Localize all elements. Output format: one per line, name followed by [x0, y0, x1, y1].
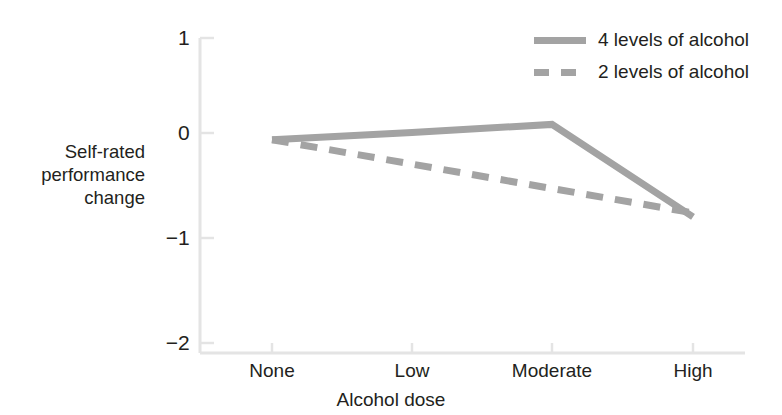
x-tick-label-high: High: [623, 360, 763, 382]
y-axis-title-line-1: Self-rated: [10, 140, 145, 163]
chart-legend: 4 levels of alcohol 2 levels of alcohol: [534, 24, 749, 88]
x-tick-label-moderate: Moderate: [482, 360, 622, 382]
y-tick-label-minus-2: −2: [150, 332, 190, 353]
y-tick-label-minus-1: −1: [150, 227, 190, 248]
y-axis-title-line-2: performance: [10, 163, 145, 186]
y-tick-label-1: 1: [150, 27, 190, 48]
x-axis-title: Alcohol dose: [0, 389, 782, 411]
legend-solid-line-icon: [534, 37, 586, 44]
legend-label-4-levels: 4 levels of alcohol: [598, 29, 749, 51]
y-axis-title-line-3: change: [10, 186, 145, 209]
legend-dashed-line-icon: [534, 69, 586, 76]
line-chart-figure: 1 0 −1 −2 Self-rated performance change …: [0, 0, 782, 415]
legend-item-4-levels: 4 levels of alcohol: [534, 24, 749, 56]
y-tick-label-0: 0: [150, 122, 190, 143]
y-axis-title: Self-rated performance change: [10, 140, 145, 209]
x-tick-label-none: None: [202, 360, 342, 382]
x-tick-label-low: Low: [342, 360, 482, 382]
legend-label-2-levels: 2 levels of alcohol: [598, 61, 749, 83]
legend-item-2-levels: 2 levels of alcohol: [534, 56, 749, 88]
